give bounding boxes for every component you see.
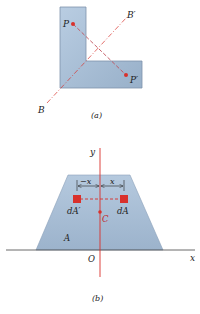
label-x: x bbox=[190, 253, 195, 263]
label-p: P bbox=[62, 19, 70, 29]
label-centroid: C bbox=[102, 214, 109, 224]
point-p-dot bbox=[71, 22, 75, 26]
symmetry-axis-bb bbox=[47, 17, 127, 103]
figure-b: y x O −x x dA′ dA C A (b) bbox=[6, 147, 195, 303]
caption-a: (a) bbox=[91, 111, 102, 120]
point-p-prime-dot bbox=[124, 73, 128, 77]
label-origin: O bbox=[88, 254, 95, 264]
label-b: B bbox=[37, 105, 45, 115]
label-area: A bbox=[63, 233, 70, 243]
caption-b: (b) bbox=[92, 294, 103, 303]
figure-a: P P′ B B′ (a) bbox=[37, 7, 142, 120]
label-da-prime: dA′ bbox=[67, 206, 81, 216]
label-y: y bbox=[89, 147, 96, 157]
label-plus-x: x bbox=[110, 177, 115, 186]
label-p-prime: P′ bbox=[129, 75, 138, 85]
element-da bbox=[120, 195, 128, 203]
label-da: dA bbox=[117, 206, 129, 216]
element-da-prime bbox=[73, 195, 81, 203]
label-minus-x: −x bbox=[80, 177, 92, 186]
label-b-prime: B′ bbox=[126, 10, 136, 20]
